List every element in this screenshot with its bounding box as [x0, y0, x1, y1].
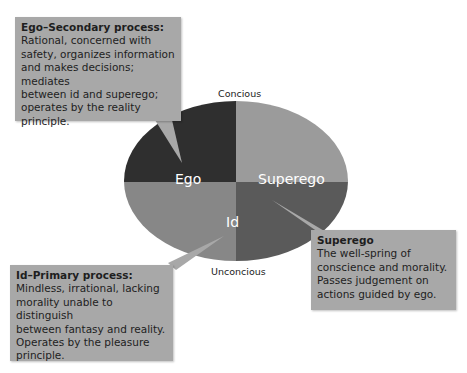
- id-segment-label: Id: [226, 214, 239, 230]
- id-callout-body: Mindless, irrational, lacking morality u…: [16, 282, 167, 362]
- id-segment: [120, 182, 236, 267]
- superego-callout-title: Superego: [317, 234, 450, 247]
- conscious-label: Concious: [218, 88, 261, 99]
- ego-callout: Ego–Secondary process: Rational, concern…: [15, 17, 181, 121]
- superego-callout-body: The well-spring of conscience and morali…: [317, 247, 450, 301]
- unconscious-label: Unconcious: [211, 266, 266, 277]
- superego-callout: Superego The well-spring of conscience a…: [311, 230, 456, 310]
- superego-segment-label: Superego: [258, 171, 325, 187]
- ego-callout-title: Ego–Secondary process:: [21, 21, 175, 34]
- superego-top-segment: [236, 95, 356, 182]
- ego-callout-body: Rational, concerned with safety, organiz…: [21, 34, 175, 128]
- id-callout: Id–Primary process: Mindless, irrational…: [10, 265, 173, 361]
- ego-segment-label: Ego: [175, 171, 201, 187]
- id-callout-title: Id–Primary process:: [16, 269, 167, 282]
